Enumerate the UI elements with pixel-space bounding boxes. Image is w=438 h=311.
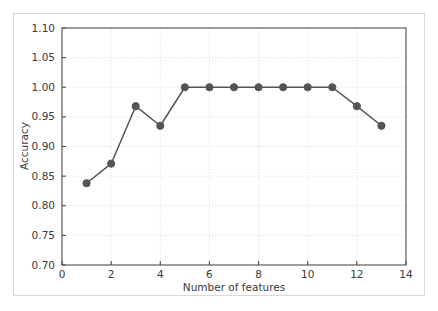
y-tick-label: 0.75 xyxy=(32,229,55,241)
x-tick-label: 2 xyxy=(108,268,115,280)
data-point-marker xyxy=(304,84,311,91)
data-point-marker xyxy=(329,84,336,91)
y-tick-label: 0.85 xyxy=(32,170,55,182)
data-point-marker xyxy=(353,103,360,110)
x-tick-label: 0 xyxy=(59,268,66,280)
y-tick-label: 0.95 xyxy=(32,110,55,122)
data-point-marker xyxy=(230,84,237,91)
data-point-marker xyxy=(108,160,115,167)
data-point-marker xyxy=(378,122,385,129)
data-point-marker xyxy=(157,122,164,129)
data-point-marker xyxy=(280,84,287,91)
y-axis-tick-labels: 0.700.750.800.850.900.951.001.051.10 xyxy=(32,22,55,271)
y-tick-label: 1.00 xyxy=(32,81,55,93)
y-tick-label: 1.05 xyxy=(32,51,55,63)
data-point-marker xyxy=(132,103,139,110)
data-point-marker xyxy=(181,84,188,91)
y-tick-label: 0.90 xyxy=(32,140,55,152)
y-axis-title: Accuracy xyxy=(18,122,30,170)
x-tick-label: 8 xyxy=(255,268,262,280)
x-tick-label: 6 xyxy=(206,268,213,280)
chart-figure: 0.700.750.800.850.900.951.001.051.10 024… xyxy=(0,0,438,311)
data-point-marker xyxy=(255,84,262,91)
x-tick-label: 12 xyxy=(350,268,363,280)
x-tick-label: 10 xyxy=(301,268,314,280)
data-point-marker xyxy=(83,180,90,187)
x-tick-label: 4 xyxy=(157,268,164,280)
x-axis-title: Number of features xyxy=(183,281,285,293)
y-tick-label: 1.10 xyxy=(32,22,55,34)
x-tick-label: 14 xyxy=(399,268,413,280)
y-tick-label: 0.70 xyxy=(32,259,55,271)
data-point-marker xyxy=(206,84,213,91)
line-chart: 0.700.750.800.850.900.951.001.051.10 024… xyxy=(0,0,438,311)
y-tick-label: 0.80 xyxy=(32,199,55,211)
x-axis-tick-labels: 02468101214 xyxy=(59,268,413,280)
